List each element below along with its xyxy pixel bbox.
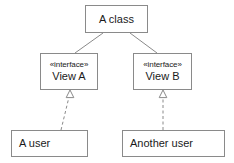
interface-node-view-a-label: View A [52, 70, 85, 83]
class-node-a-class[interactable]: A class [85, 5, 148, 33]
class-node-another-user[interactable]: Another user [122, 130, 225, 157]
interface-node-view-a[interactable]: «interface» View A [40, 53, 98, 90]
hollow-triangle-arrowhead-view-b [159, 90, 167, 98]
edge-a-user-realizes-view-a [61, 97, 69, 130]
hollow-triangle-arrowhead-view-a [66, 90, 74, 98]
edge-a-class-to-view-b [130, 33, 157, 53]
interface-node-view-b-stereotype: «interface» [143, 60, 181, 70]
interface-node-view-a-stereotype: «interface» [50, 60, 88, 70]
class-node-another-user-label: Another user [130, 137, 193, 150]
edge-a-class-to-view-a [75, 33, 103, 53]
class-node-a-class-label: A class [99, 13, 134, 26]
uml-class-diagram: A class «interface» View A «interface» V… [0, 0, 234, 163]
interface-node-view-b[interactable]: «interface» View B [133, 53, 192, 90]
class-node-a-user[interactable]: A user [11, 130, 88, 157]
class-node-a-user-label: A user [19, 137, 50, 150]
interface-node-view-b-label: View B [145, 70, 179, 83]
